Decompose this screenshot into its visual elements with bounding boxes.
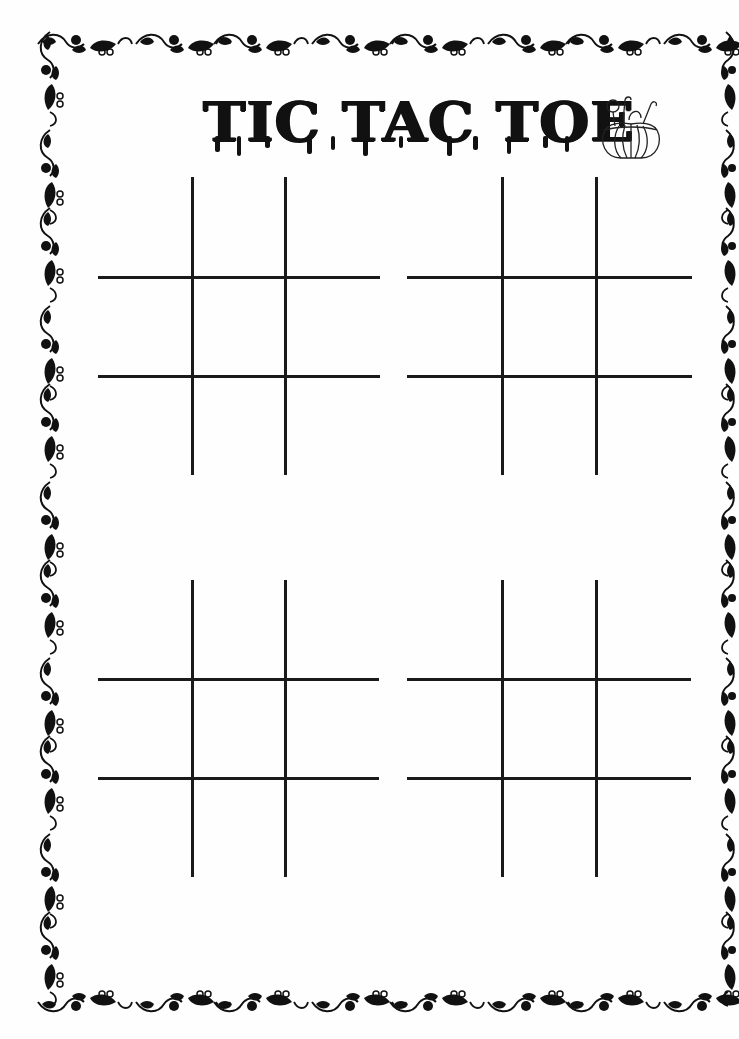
board-cell[interactable] [504,279,595,375]
board-cell[interactable] [504,580,595,678]
board-cell[interactable] [598,177,692,276]
board-cell[interactable] [287,580,379,678]
board-cell[interactable] [194,378,284,475]
board-cell[interactable] [407,780,501,877]
board-cell[interactable] [98,780,191,877]
board-cell[interactable] [598,580,691,678]
board-cell[interactable] [194,780,284,877]
board-cell[interactable] [504,177,595,276]
tic-tac-toe-board-2 [407,177,692,475]
board-cell[interactable] [407,580,501,678]
board-cell[interactable] [287,177,380,276]
board-cell[interactable] [98,378,191,475]
tic-tac-toe-board-1 [98,177,380,475]
board-cell[interactable] [504,378,595,475]
board-cell[interactable] [598,279,692,375]
board-cell[interactable] [194,177,284,276]
board-cell[interactable] [287,681,379,777]
board-cell[interactable] [287,279,380,375]
board-cell[interactable] [98,279,191,375]
board-cell[interactable] [98,177,191,276]
tic-tac-toe-board-3 [98,580,379,877]
board-cell[interactable] [98,681,191,777]
board-cell[interactable] [407,279,501,375]
page-title: TIC TAC TOE [203,92,611,162]
tic-tac-toe-board-4 [407,580,691,877]
floral-border-right [716,30,739,1016]
board-cell[interactable] [194,580,284,678]
board-cell[interactable] [504,681,595,777]
floral-border-bottom [36,988,739,1016]
board-cell[interactable] [598,780,691,877]
board-cell[interactable] [598,378,692,475]
pumpkin-candy-bucket-icon [597,94,665,162]
floral-border-top [36,30,739,56]
board-cell[interactable] [407,681,501,777]
board-cell[interactable] [194,279,284,375]
board-cell[interactable] [504,780,595,877]
board-cell[interactable] [407,177,501,276]
board-cell[interactable] [287,780,379,877]
board-cell[interactable] [287,378,380,475]
board-cell[interactable] [598,681,691,777]
slime-drips-decoration [203,136,593,166]
floral-border-left [36,30,66,1016]
board-cell[interactable] [407,378,501,475]
worksheet-page: TIC TAC TOE [0,0,739,1039]
board-cell[interactable] [98,580,191,678]
board-cell[interactable] [194,681,284,777]
